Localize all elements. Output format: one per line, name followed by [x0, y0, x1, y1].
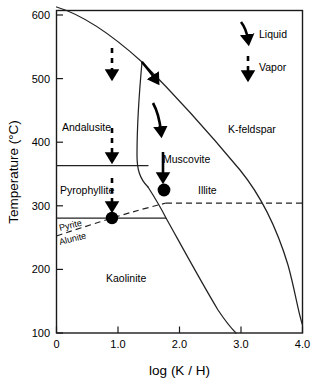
y-tick-label-400: 400 — [32, 136, 50, 148]
field-label-illite: Illite — [198, 184, 217, 196]
boundary-andalusite-kfeldspar-upper — [57, 7, 143, 62]
liquid-arrow-icon — [241, 22, 248, 40]
x-tick-label-0: 0 — [53, 338, 59, 350]
data-point-right[interactable] — [158, 184, 171, 197]
x-tick-label-3: 3.0 — [233, 338, 248, 350]
x-tick-label-4: 4.0 — [295, 338, 310, 350]
boundary-muscovite-kaolinite — [148, 187, 236, 333]
phase-diagram-svg: 600 500 400 300 200 100 0 1.0 2.0 3.0 4.… — [0, 0, 321, 391]
process-arrow-solid-muscovite-upper — [153, 103, 161, 132]
x-axis-tick-labels: 0 1.0 2.0 3.0 4.0 — [53, 338, 310, 350]
label-pyrite: Pyrite — [58, 218, 83, 233]
field-label-pyrophyllite: Pyrophyllite — [60, 184, 114, 196]
boundary-andalusite-muscovite — [137, 62, 148, 187]
y-axis-ticks — [57, 15, 64, 333]
y-axis-tick-labels: 600 500 400 300 200 100 — [32, 9, 50, 339]
x-tick-label-2: 2.0 — [172, 338, 187, 350]
x-axis-title: log (K / H) — [149, 363, 210, 378]
annotation-label-vapor: Vapor — [259, 61, 287, 73]
y-tick-label-100: 100 — [32, 327, 50, 339]
y-tick-label-200: 200 — [32, 263, 50, 275]
y-tick-label-500: 500 — [32, 73, 50, 85]
field-label-kaolinite: Kaolinite — [106, 272, 146, 284]
annotation-label-liquid: Liquid — [259, 28, 287, 40]
x-axis-ticks — [57, 327, 303, 334]
label-alunite: Alunite — [58, 231, 87, 247]
y-axis-title: Temperature (°C) — [6, 120, 21, 224]
field-label-kfeldspar: K-feldspar — [228, 123, 276, 135]
field-label-andalusite: Andalusite — [62, 121, 111, 133]
data-point-left[interactable] — [106, 212, 118, 224]
y-tick-label-600: 600 — [32, 9, 50, 21]
phase-diagram-figure: 600 500 400 300 200 100 0 1.0 2.0 3.0 4.… — [0, 0, 321, 391]
y-tick-label-300: 300 — [32, 200, 50, 212]
plot-frame — [57, 11, 303, 334]
x-tick-label-1: 1.0 — [110, 338, 125, 350]
field-label-muscovite: Muscovite — [163, 153, 210, 165]
process-arrow-solid-triple-point — [142, 62, 156, 80]
